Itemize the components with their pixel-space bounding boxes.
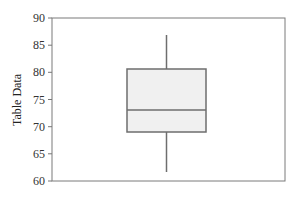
y-tick-labels: 90 85 80 75 70 65 60 bbox=[33, 11, 45, 188]
y-tick-label: 65 bbox=[33, 147, 45, 161]
y-tick-label: 75 bbox=[33, 93, 45, 107]
y-tick-label: 70 bbox=[33, 120, 45, 134]
y-tick-label: 60 bbox=[33, 174, 45, 188]
y-tick-label: 90 bbox=[33, 11, 45, 25]
iqr-box bbox=[127, 69, 206, 132]
y-axis bbox=[48, 18, 52, 181]
y-tick-label: 80 bbox=[33, 65, 45, 79]
y-axis-title: Table Data bbox=[10, 73, 24, 126]
box-plot-chart: 90 85 80 75 70 65 60 Table Data bbox=[0, 0, 301, 198]
y-tick-label: 85 bbox=[33, 38, 45, 52]
